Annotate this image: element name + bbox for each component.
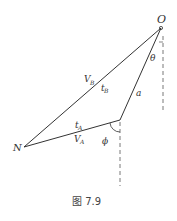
label-tb: t B bbox=[101, 83, 109, 94]
label-n: N bbox=[12, 142, 23, 153]
vector-triangle-diagram: O N θ a ϕ V B t B t A V A 图 7.9 bbox=[0, 0, 177, 221]
edge-p-o bbox=[120, 28, 161, 120]
svg-text:A: A bbox=[79, 138, 85, 145]
label-a: a bbox=[136, 88, 141, 98]
label-o: O bbox=[157, 13, 166, 26]
label-vb: V B bbox=[84, 74, 95, 86]
svg-text:B: B bbox=[103, 87, 109, 94]
svg-text:B: B bbox=[89, 79, 95, 86]
label-phi: ϕ bbox=[102, 136, 108, 146]
label-va: V A bbox=[74, 134, 85, 145]
label-ta: t A bbox=[75, 120, 83, 131]
label-theta: θ bbox=[150, 53, 156, 63]
phi-angle-arc bbox=[110, 123, 120, 132]
figure-caption: 图 7.9 bbox=[72, 196, 101, 207]
svg-text:A: A bbox=[77, 124, 83, 131]
